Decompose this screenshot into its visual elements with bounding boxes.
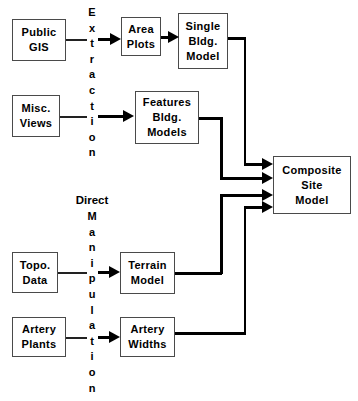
node-public-gis-line1: Public xyxy=(22,25,57,40)
arrowhead-area-plots xyxy=(110,33,121,45)
node-topo-data[interactable]: Topo. Data xyxy=(12,252,58,293)
arrowhead-composite-2 xyxy=(262,172,273,184)
manipulation-letter-4: p xyxy=(82,271,102,287)
node-public-gis[interactable]: Public GIS xyxy=(12,19,66,61)
node-topo-data-line2: Data xyxy=(22,273,47,288)
node-area-plots-line2: Plots xyxy=(127,37,155,52)
extraction-letter-8: o xyxy=(82,130,102,146)
arrowhead-single-bldg xyxy=(168,31,179,43)
diagram-canvas: Public GIS Misc. Views Area Plots Single… xyxy=(0,0,358,401)
manipulation-letter-8: t xyxy=(82,334,102,350)
edge-features-out xyxy=(199,117,222,120)
process-label-direct: Direct xyxy=(62,194,122,206)
node-composite-site-model-line1: Composite xyxy=(282,163,342,178)
process-label-extraction: E x t r a c t i o n xyxy=(82,5,102,161)
edge-terrain-up xyxy=(220,194,223,274)
node-features-bldg-models-line2: Bldg. xyxy=(153,110,182,125)
node-composite-site-model[interactable]: Composite Site Model xyxy=(273,156,351,214)
edge-features-in xyxy=(220,177,266,180)
node-single-bldg-model-line1: Single xyxy=(186,19,221,34)
node-composite-site-model-line2: Site xyxy=(301,178,322,193)
node-features-bldg-models[interactable]: Features Bldg. Models xyxy=(135,91,199,144)
process-label-manipulation: M a n i p u l a t i o n xyxy=(82,209,102,396)
manipulation-letter-7: a xyxy=(82,318,102,334)
extraction-letter-9: n xyxy=(82,145,102,161)
node-artery-plants[interactable]: Artery Plants xyxy=(12,317,66,357)
node-area-plots-line1: Area xyxy=(128,22,154,37)
edge-terrain-out xyxy=(175,272,222,275)
node-artery-widths[interactable]: Artery Widths xyxy=(120,317,175,357)
node-area-plots[interactable]: Area Plots xyxy=(121,17,161,56)
node-terrain-model-line2: Model xyxy=(131,273,164,288)
node-artery-plants-line2: Plants xyxy=(22,337,57,352)
node-terrain-model-line1: Terrain xyxy=(128,258,167,273)
edge-single-bldg-down xyxy=(244,37,247,165)
node-single-bldg-model[interactable]: Single Bldg. Model xyxy=(178,13,228,69)
manipulation-letter-5: u xyxy=(82,287,102,303)
node-misc-views-line1: Misc. xyxy=(21,101,50,116)
manipulation-letter-9: i xyxy=(82,349,102,365)
extraction-letter-7: i xyxy=(82,114,102,130)
edge-features-down xyxy=(220,117,223,179)
manipulation-letter-10: o xyxy=(82,365,102,381)
node-features-bldg-models-line1: Features xyxy=(143,95,191,110)
extraction-letter-5: c xyxy=(82,83,102,99)
arrowhead-composite-3 xyxy=(262,189,273,201)
node-misc-views-line2: Views xyxy=(20,116,53,131)
arrowhead-artery-widths xyxy=(109,331,120,343)
node-single-bldg-model-line2: Bldg. xyxy=(189,34,218,49)
node-terrain-model[interactable]: Terrain Model xyxy=(120,252,175,294)
extraction-letter-2: t xyxy=(82,36,102,52)
node-public-gis-line2: GIS xyxy=(29,40,49,55)
node-features-bldg-models-line3: Models xyxy=(147,125,187,140)
manipulation-letter-1: a xyxy=(82,225,102,241)
arrowhead-terrain-model xyxy=(109,266,120,278)
node-composite-site-model-line3: Model xyxy=(295,193,328,208)
edge-artery-widths-up xyxy=(244,206,247,334)
manipulation-letter-2: n xyxy=(82,240,102,256)
edge-terrain-in xyxy=(220,194,266,197)
arrowhead-features-bldg xyxy=(123,110,134,122)
manipulation-letter-11: n xyxy=(82,381,102,397)
manipulation-letter-0: M xyxy=(82,209,102,225)
node-artery-widths-line2: Widths xyxy=(128,337,166,352)
node-misc-views[interactable]: Misc. Views xyxy=(12,95,60,137)
arrowhead-composite-1 xyxy=(262,158,273,170)
extraction-letter-3: r xyxy=(82,52,102,68)
arrowhead-composite-4 xyxy=(262,201,273,213)
node-topo-data-line1: Topo. xyxy=(20,258,51,273)
manipulation-letter-6: l xyxy=(82,303,102,319)
extraction-letter-4: a xyxy=(82,67,102,83)
manipulation-letter-3: i xyxy=(82,256,102,272)
extraction-letter-1: x xyxy=(82,21,102,37)
extraction-letter-6: t xyxy=(82,99,102,115)
node-artery-plants-line1: Artery xyxy=(22,322,56,337)
node-artery-widths-line1: Artery xyxy=(130,322,164,337)
node-single-bldg-model-line3: Model xyxy=(186,49,219,64)
extraction-letter-0: E xyxy=(82,5,102,21)
edge-artery-widths-out xyxy=(175,332,246,335)
